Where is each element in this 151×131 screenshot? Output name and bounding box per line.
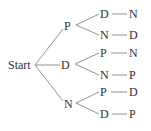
tree-diagram: Start P D N D N P N P D N D N P D P [0, 0, 151, 131]
node-leaf-4: P [129, 68, 136, 82]
node-l1-p: P [64, 19, 71, 33]
node-leaf-5: D [129, 85, 138, 99]
node-leaf-2: D [129, 28, 138, 42]
edge-d-p [75, 53, 99, 64]
edge-n-d [76, 103, 99, 114]
edge-n-p [76, 92, 99, 103]
node-l2-dp: P [100, 46, 107, 60]
edge-p-d [76, 14, 99, 25]
edge-start-n [35, 65, 63, 101]
node-leaf-6: P [129, 107, 136, 121]
node-l2-pn: N [100, 28, 109, 42]
node-leaf-3: N [129, 46, 138, 60]
node-l1-d: D [61, 58, 70, 72]
node-start: Start [8, 58, 31, 72]
node-l2-dn: N [100, 68, 109, 82]
node-l2-pd: D [100, 7, 109, 21]
edge-start-p [35, 29, 63, 65]
edge-d-n [75, 64, 99, 75]
tree-diagram-svg: Start P D N D N P N P D N D N P D P [0, 0, 151, 131]
node-leaf-1: N [129, 7, 138, 21]
node-l2-np: P [100, 85, 107, 99]
edge-p-n [76, 25, 99, 35]
node-l2-nd: D [100, 107, 109, 121]
node-l1-n: N [64, 97, 73, 111]
